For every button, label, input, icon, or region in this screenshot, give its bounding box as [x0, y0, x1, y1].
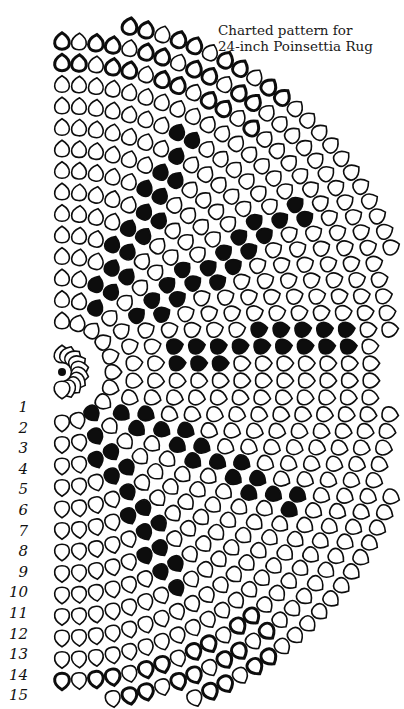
open-petal [103, 211, 122, 231]
open-petal [255, 356, 272, 371]
open-petal [262, 287, 283, 306]
open-petal [88, 120, 105, 138]
open-petal [318, 389, 336, 405]
open-petal [370, 455, 390, 474]
open-petal [253, 389, 271, 406]
open-petal [55, 291, 70, 308]
solid-petal [250, 321, 269, 339]
open-petal [136, 615, 155, 635]
open-petal [87, 562, 104, 581]
open-petal [137, 64, 156, 84]
open-petal [55, 480, 70, 497]
open-petal [290, 304, 310, 322]
open-petal [104, 57, 121, 76]
open-petal [55, 673, 70, 690]
open-petal [71, 119, 87, 136]
open-petal [356, 423, 375, 441]
open-petal [55, 97, 70, 114]
open-petal [71, 226, 88, 244]
open-petal [210, 389, 229, 406]
open-petal [125, 355, 143, 372]
open-petal [103, 189, 122, 209]
solid-petal [169, 355, 187, 371]
open-petal [88, 34, 104, 52]
open-petal [88, 649, 105, 667]
open-petal [55, 415, 70, 432]
open-petal [153, 655, 172, 675]
open-petal [341, 373, 358, 388]
open-petal [370, 270, 390, 289]
open-petal [143, 389, 163, 408]
open-petal [245, 303, 265, 322]
open-petal [378, 423, 397, 440]
open-petal [71, 162, 87, 180]
open-petal [183, 405, 203, 424]
open-petal [347, 270, 367, 289]
open-petal [87, 495, 105, 515]
open-petal [342, 254, 363, 274]
open-petal [55, 248, 70, 265]
open-petal [222, 303, 242, 322]
open-petal [104, 123, 122, 142]
open-petal [71, 521, 87, 539]
open-petal [105, 365, 122, 380]
open-petal [381, 237, 402, 257]
open-petal [228, 405, 248, 423]
open-petal [250, 406, 269, 424]
open-petal [104, 690, 121, 709]
open-petal [262, 438, 283, 457]
open-petal [121, 17, 139, 36]
open-petal [55, 205, 70, 222]
open-petal [277, 356, 294, 371]
open-petal [120, 598, 139, 618]
open-petal [222, 421, 242, 440]
open-petal [87, 518, 105, 537]
open-petal [143, 337, 163, 356]
open-petal [120, 575, 139, 595]
open-petal [381, 406, 399, 423]
open-petal [71, 672, 87, 689]
open-petal [231, 389, 249, 406]
open-petal [316, 406, 335, 423]
open-petal [88, 671, 104, 689]
open-petal [120, 104, 138, 124]
open-petal [277, 373, 294, 388]
open-petal [341, 356, 358, 371]
open-petal [71, 543, 87, 561]
open-petal [55, 162, 70, 179]
open-petal [87, 540, 105, 559]
open-petal [55, 119, 70, 136]
open-petal [121, 686, 139, 705]
open-petal [121, 664, 139, 683]
open-petal [55, 609, 70, 626]
open-petal [88, 55, 104, 73]
open-petal [55, 76, 70, 93]
open-petal [55, 312, 70, 329]
open-petal [87, 164, 104, 183]
open-petal [120, 171, 139, 191]
open-petal [330, 439, 350, 458]
open-petal [136, 592, 155, 613]
open-petal [120, 552, 139, 572]
open-petal [302, 270, 323, 290]
open-petal [312, 304, 331, 322]
open-petal [55, 140, 70, 157]
open-petal [294, 406, 313, 423]
open-petal [55, 437, 70, 454]
open-petal [55, 183, 70, 200]
solid-petal [297, 338, 315, 354]
open-petal [104, 101, 122, 120]
open-petal [55, 33, 70, 50]
open-petal [362, 338, 380, 354]
open-petal [88, 99, 105, 117]
open-petal [71, 76, 87, 93]
open-petal [125, 373, 143, 390]
open-petal [71, 248, 88, 267]
open-petal [342, 471, 363, 491]
open-petal [121, 642, 139, 661]
open-petal [359, 321, 377, 338]
open-petal [70, 433, 88, 453]
open-petal [307, 287, 327, 306]
open-petal [334, 422, 353, 440]
solid-petal [294, 321, 313, 338]
